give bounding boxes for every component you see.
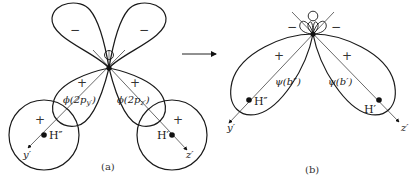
sign-upper-left: − (70, 23, 80, 37)
atom-label-h-prime-b: H′ (364, 103, 377, 116)
small-node-circle-b (308, 11, 318, 21)
sign-upper-right: − (139, 23, 149, 37)
panel-b: − − + + ψ(b″) ψ(b′) H″ H′ y′ z′ (b) (226, 11, 409, 175)
left-hybrid-lobe (231, 34, 313, 115)
h-prime-nucleus-a (169, 132, 175, 138)
sign-lower-right: + (130, 76, 140, 90)
atom-label-h-double-prime-a: H″ (49, 129, 63, 142)
h-double-prime-nucleus-a (41, 132, 47, 138)
orbital-label-psi-b-double-prime: ψ(b″) (275, 76, 301, 87)
sign-left-lobe: + (274, 49, 284, 63)
upper-right-negative-lobe (109, 3, 166, 68)
sign-small-right: − (331, 20, 341, 34)
axis-label-z-prime-a: z′ (185, 149, 194, 160)
sign-right-lobe: + (342, 49, 352, 63)
sign-right-sphere: + (173, 113, 183, 127)
orbital-hybridization-diagram: − − + + + + ϕ(2py′) ϕ(2pz′) H″ H′ y′ z′ … (0, 0, 413, 180)
axis-label-y-prime-b: y′ (226, 122, 236, 133)
h-prime-nucleus-b (376, 97, 382, 103)
axis-label-y-prime-a: y′ (22, 149, 32, 160)
z-prime-axis-b (292, 12, 399, 122)
sign-left-sphere: + (35, 113, 45, 127)
central-nucleus-b (310, 31, 315, 36)
atom-label-h-double-prime-b: H″ (254, 95, 268, 108)
caption-a: (a) (101, 161, 115, 172)
sign-lower-left: + (77, 76, 87, 90)
orbital-label-psi-b-prime: ψ(b′) (328, 76, 352, 87)
orbital-label-2p-y: ϕ(2py′) (63, 94, 96, 107)
caption-b: (b) (305, 164, 319, 175)
axis-label-z-prime-b: z′ (400, 122, 409, 133)
central-nucleus-a (106, 65, 111, 70)
sign-small-left: − (287, 20, 297, 34)
panel-a: − − + + + + ϕ(2py′) ϕ(2pz′) H″ H′ y′ z′ … (9, 3, 207, 172)
h-double-prime-nucleus-b (246, 97, 252, 103)
y-prime-axis-b (229, 12, 334, 123)
atom-label-h-prime-a: H′ (157, 129, 170, 142)
